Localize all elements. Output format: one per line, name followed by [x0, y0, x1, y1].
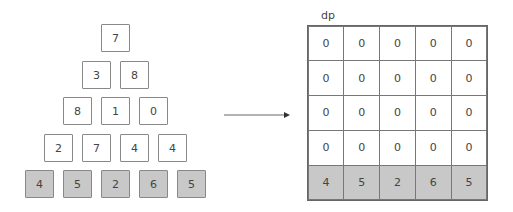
triangle-cell: 8 [120, 61, 149, 89]
dp-cell: 0 [415, 26, 452, 62]
triangle-base-cell: 6 [139, 170, 168, 198]
dp-cell: 0 [379, 26, 416, 62]
dp-cell: 0 [379, 95, 416, 131]
dp-cell: 2 [379, 165, 416, 201]
dp-cell: 0 [343, 26, 380, 62]
dp-cell: 0 [343, 60, 380, 96]
dp-cell: 0 [451, 60, 488, 96]
triangle-cell: 1 [101, 97, 130, 125]
dp-cell: 0 [415, 95, 452, 131]
dp-cell: 0 [451, 95, 488, 131]
triangle-base-cell: 4 [25, 170, 54, 198]
dp-cell: 0 [451, 130, 488, 166]
dp-cell: 6 [415, 165, 452, 201]
dp-cell: 5 [343, 165, 380, 201]
arrow-right-icon [224, 112, 290, 118]
triangle-base-cell: 5 [63, 170, 92, 198]
triangle-base-cell: 2 [101, 170, 130, 198]
triangle-cell: 0 [139, 97, 168, 125]
dp-label: dp [321, 9, 335, 22]
dp-cell: 0 [379, 60, 416, 96]
triangle-cell: 7 [101, 24, 130, 52]
triangle-cell: 4 [158, 134, 187, 162]
dp-cell: 0 [343, 95, 380, 131]
triangle-cell: 8 [63, 97, 92, 125]
dp-cell: 0 [308, 60, 345, 96]
dp-cell: 0 [451, 26, 488, 62]
dp-cell: 0 [343, 130, 380, 166]
triangle-base-cell: 5 [177, 170, 206, 198]
dp-table: 0000000000000000000045265 [307, 25, 488, 201]
dp-cell: 0 [415, 130, 452, 166]
dp-cell: 0 [415, 60, 452, 96]
dp-cell: 0 [308, 130, 345, 166]
dp-cell: 0 [379, 130, 416, 166]
triangle-cell: 3 [82, 61, 111, 89]
dp-cell: 4 [308, 165, 345, 201]
triangle-cell: 2 [44, 134, 73, 162]
dp-cell: 0 [308, 95, 345, 131]
dp-cell: 0 [308, 26, 345, 62]
dp-cell: 5 [451, 165, 488, 201]
triangle-cell: 7 [82, 134, 111, 162]
triangle-cell: 4 [120, 134, 149, 162]
